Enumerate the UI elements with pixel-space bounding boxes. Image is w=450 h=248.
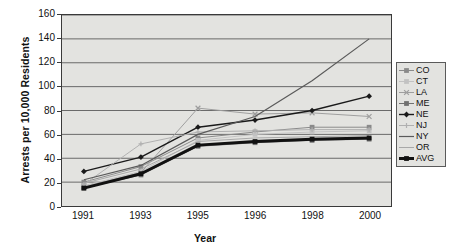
y-tick-label: 20 [21, 178, 55, 188]
y-tick-mark [57, 159, 61, 160]
legend-item-or[interactable]: OR [399, 142, 443, 153]
y-tick-label: 80 [21, 106, 55, 116]
legend-label: LA [414, 87, 427, 98]
y-tick-label: 60 [21, 130, 55, 140]
legend-label: NJ [414, 120, 427, 131]
y-tick-mark [57, 62, 61, 63]
legend-label: ME [414, 98, 430, 109]
y-tick-label: 100 [21, 81, 55, 91]
x-tick-label: 1998 [288, 210, 338, 221]
legend-marker-icon [399, 87, 414, 98]
series-ne [81, 93, 372, 174]
legend-label: OR [414, 142, 430, 153]
legend-label: CO [414, 65, 430, 76]
plot-area [61, 14, 392, 207]
x-tick-label: 1993 [115, 210, 165, 221]
legend-item-ny[interactable]: NY [399, 131, 443, 142]
y-tick-mark [57, 86, 61, 87]
y-tick-mark [57, 183, 61, 184]
y-tick-label: 40 [21, 154, 55, 164]
x-tick-label: 2000 [345, 210, 395, 221]
legend: COCTLAMENENJNYORAVG [396, 62, 446, 167]
legend-label: NY [414, 131, 429, 142]
legend-item-co[interactable]: CO [399, 65, 443, 76]
legend-item-ne[interactable]: NE [399, 109, 443, 120]
chart-canvas [62, 15, 391, 206]
series-line [84, 138, 369, 188]
legend-marker-icon [399, 142, 414, 153]
legend-marker-icon [399, 65, 414, 76]
chart-figure: Arrests per 10,000 Residents 02040608010… [0, 0, 450, 248]
x-tick-label: 1995 [173, 210, 223, 221]
y-tick-mark [57, 38, 61, 39]
legend-marker-icon [399, 131, 414, 142]
legend-item-nj[interactable]: NJ [399, 120, 443, 131]
legend-marker-icon [399, 153, 414, 164]
y-tick-mark [57, 14, 61, 15]
legend-marker-icon [399, 98, 414, 109]
series-line [84, 139, 369, 188]
y-tick-mark [57, 207, 61, 208]
legend-marker-icon [399, 76, 414, 87]
legend-label: CT [414, 76, 428, 87]
x-tick-label: 1991 [58, 210, 108, 221]
y-tick-label: 120 [21, 57, 55, 67]
x-tick-label: 1996 [230, 210, 280, 221]
legend-marker-icon [399, 120, 414, 131]
x-axis-title: Year [0, 232, 410, 244]
legend-item-ct[interactable]: CT [399, 76, 443, 87]
legend-label: NE [414, 109, 429, 120]
y-tick-label: 0 [21, 202, 55, 212]
legend-item-la[interactable]: LA [399, 87, 443, 98]
legend-marker-icon [399, 109, 414, 120]
y-tick-mark [57, 111, 61, 112]
y-tick-label: 160 [21, 9, 55, 19]
y-tick-mark [57, 135, 61, 136]
y-tick-label: 140 [21, 33, 55, 43]
legend-item-me[interactable]: ME [399, 98, 443, 109]
legend-item-avg[interactable]: AVG [399, 153, 443, 164]
legend-label: AVG [414, 153, 434, 164]
series-line [84, 96, 369, 171]
